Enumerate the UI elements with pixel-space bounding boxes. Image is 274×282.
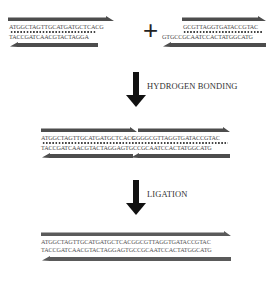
- annealed-top-right-strand: CGGGCGTTAGGTGATACCGTAC: [132, 134, 220, 141]
- plus-operator: +: [143, 17, 158, 43]
- annealed-bottom-strand: TACCGATCAACGTACTAGGAGTGCCGCAATCCACTATGGC…: [41, 144, 212, 151]
- ligated-bottom-strand: TACCGATCAACGTACTAGGAGTGCCGCAATCCACTATGGC…: [41, 246, 212, 253]
- strand-arrow-left-icon: [131, 153, 230, 161]
- down-arrow-icon: [126, 72, 146, 108]
- step-label-hydrogen-bonding: HYDROGEN BONDING: [147, 81, 238, 91]
- fragment-left-bottom-strand: TACCGATCAACGTACTAGGA: [9, 33, 89, 40]
- fragment-right-bottom-strand: GTGCCGCAATCCACTATGGCATG: [162, 33, 253, 40]
- strand-arrow-left-icon: [163, 42, 266, 50]
- step-label-ligation: LIGATION: [147, 189, 187, 199]
- fragment-right-top-strand: GCGTTAGGTGATACCGTAC: [183, 23, 258, 30]
- ligated-top-strand: ATGGCTAGTTGCATGATGCTCACGGCGTTAGGTGATACCG…: [41, 238, 211, 245]
- strand-arrow-left-icon: [10, 42, 98, 50]
- annealed-top-left-strand: ATGGCTAGTTGCATGATGCTCACG: [41, 134, 136, 141]
- strand-arrow-left-icon: [42, 153, 133, 161]
- fragment-left-top-strand: ATGGCTAGTTGCATGATGCTCACG: [9, 23, 104, 30]
- strand-arrow-left-icon: [42, 256, 231, 264]
- down-arrow-icon: [126, 180, 146, 216]
